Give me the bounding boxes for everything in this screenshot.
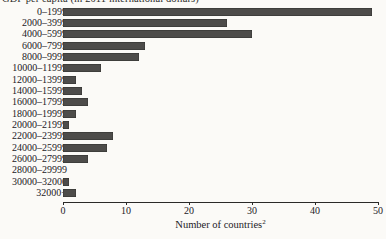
category-label: 16000–17999 <box>0 96 67 108</box>
bar-track <box>63 178 69 186</box>
category-label: 10000–11999 <box>0 62 67 74</box>
x-axis-tick-label: 50 <box>373 205 383 216</box>
x-axis-line <box>63 202 378 203</box>
bar-row: 28000–29999 <box>0 165 386 176</box>
bar-row: 4000–5999 <box>0 29 386 40</box>
category-label: 4000–5999 <box>0 28 67 40</box>
bar-row: 18000–19999 <box>0 108 386 119</box>
bar-row: 20000–21999 <box>0 119 386 130</box>
category-label: 18000–19999 <box>0 108 67 120</box>
x-axis-tick-label: 10 <box>121 205 131 216</box>
bar <box>63 110 76 118</box>
bar-row: 26000–27999 <box>0 153 386 164</box>
category-label: 6000–7999 <box>0 40 67 52</box>
bar-track <box>63 189 76 197</box>
category-label: 8000–9999 <box>0 51 67 63</box>
bar-track <box>63 155 88 163</box>
bar <box>63 121 69 129</box>
bar-row: 30000–32000 <box>0 176 386 187</box>
bar-track <box>63 121 69 129</box>
bar-track <box>63 98 88 106</box>
category-label: 2000–3999 <box>0 17 67 29</box>
category-label: 26000–27999 <box>0 153 67 165</box>
bar <box>63 155 88 163</box>
bar-track <box>63 30 252 38</box>
bar <box>63 30 252 38</box>
bar <box>63 189 76 197</box>
x-axis-label-footnote-marker: 2 <box>262 218 266 226</box>
category-label: 28000–29999 <box>0 164 67 176</box>
bar-row: 14000–15999 <box>0 85 386 96</box>
bar-row: 32000+ <box>0 188 386 199</box>
bar <box>63 8 372 16</box>
category-label: 30000–32000 <box>0 176 67 188</box>
bar-track <box>63 110 76 118</box>
x-axis-tick-label: 30 <box>247 205 257 216</box>
category-label: 22000–23999 <box>0 130 67 142</box>
bar <box>63 64 101 72</box>
bar <box>63 144 107 152</box>
category-label: 24000–25999 <box>0 142 67 154</box>
bar <box>63 53 139 61</box>
bar <box>63 132 113 140</box>
bar-track <box>63 144 107 152</box>
bar-track <box>63 8 372 16</box>
bar-track <box>63 87 82 95</box>
bar <box>63 98 88 106</box>
bar-row: 24000–25999 <box>0 142 386 153</box>
bar <box>63 19 227 27</box>
x-axis-label-text: Number of countries <box>175 219 262 230</box>
bar-track <box>63 132 113 140</box>
category-label: 0–1999 <box>0 6 67 18</box>
bar-row: 12000–13999 <box>0 74 386 85</box>
category-label: 14000–15999 <box>0 85 67 97</box>
bar-track <box>63 76 76 84</box>
bar-track <box>63 42 145 50</box>
chart-caption: GDP per capita (in 2011 international do… <box>2 0 199 4</box>
category-label: 12000–13999 <box>0 74 67 86</box>
bar <box>63 42 145 50</box>
bar-row: 2000–3999 <box>0 17 386 28</box>
bar-row: 6000–7999 <box>0 40 386 51</box>
bar-row: 10000–11999 <box>0 63 386 74</box>
bar-row: 8000–9999 <box>0 51 386 62</box>
gdp-per-capita-bar-chart: GDP per capita (in 2011 international do… <box>0 0 386 239</box>
plot-area: 0–19992000–39994000–59996000–79998000–99… <box>0 6 386 202</box>
category-label: 20000–21999 <box>0 119 67 131</box>
bar-track <box>63 64 101 72</box>
bar <box>63 87 82 95</box>
x-axis-label: Number of countries2 <box>63 219 378 230</box>
x-axis-tick-label: 20 <box>184 205 194 216</box>
category-label: 32000+ <box>0 187 67 199</box>
bar-row: 22000–23999 <box>0 131 386 142</box>
bar-track <box>63 19 227 27</box>
bar-row: 16000–17999 <box>0 97 386 108</box>
x-axis-tick-label: 0 <box>61 205 66 216</box>
bar-row: 0–1999 <box>0 6 386 17</box>
bar-track <box>63 53 139 61</box>
bar <box>63 76 76 84</box>
bar <box>63 178 69 186</box>
x-axis-tick-label: 40 <box>310 205 320 216</box>
